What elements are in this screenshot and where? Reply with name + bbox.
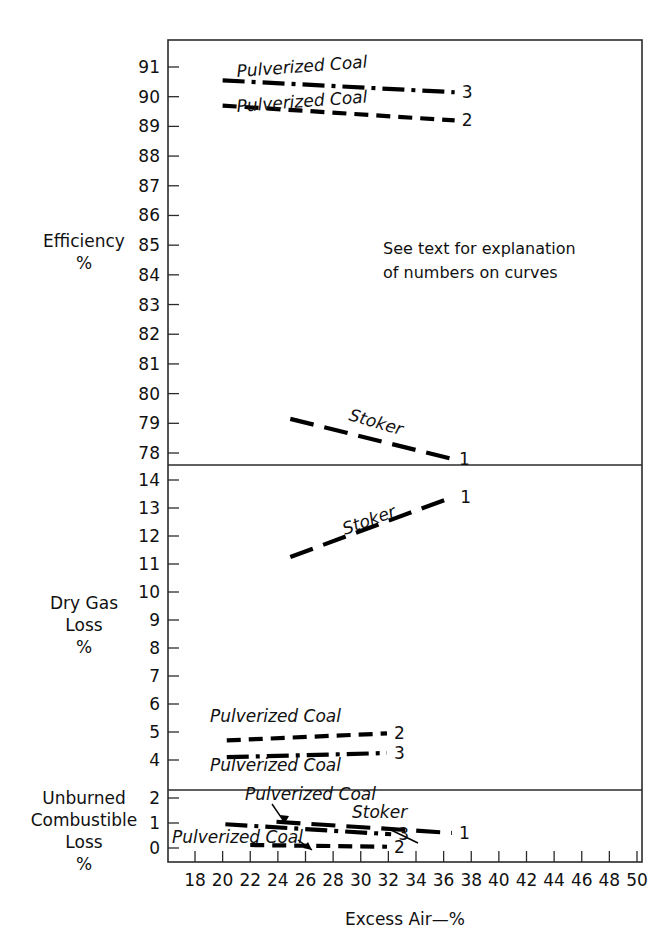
x-tick-label-20: 20: [212, 870, 234, 890]
curve-label-pulverized-coal-2-bot: Pulverized Coal: [172, 827, 303, 847]
curve-number-dry-gas-loss-1: 1: [460, 487, 471, 507]
y-tick-label-efficiency-85: 85: [138, 235, 160, 255]
y-tick-label-dry-gas-loss-13: 13: [138, 498, 160, 518]
x-tick-label-28: 28: [322, 870, 344, 890]
y-tick-label-efficiency-90: 90: [138, 87, 160, 107]
x-tick-label-46: 46: [571, 870, 593, 890]
y-tick-label-efficiency-80: 80: [138, 384, 160, 404]
x-tick-label-40: 40: [488, 870, 510, 890]
y-tick-label-efficiency-87: 87: [138, 176, 160, 196]
note-line-1: See text for explanation: [383, 239, 576, 258]
curve-number-efficiency-3: 3: [462, 82, 473, 102]
y-axis-ticks-unburned: 210: [149, 788, 179, 858]
x-tick-label-18: 18: [184, 870, 206, 890]
curve-label-stoker-bot: Stoker: [352, 802, 408, 822]
y-axis-ticks-drygas: 1413121110987654: [138, 470, 179, 770]
curve-number-efficiency-2: 2: [462, 110, 473, 130]
note-line-2: of numbers on curves: [383, 263, 558, 282]
drygas-label-line1: Dry Gas: [50, 593, 118, 613]
x-axis-title: Excess Air—%: [345, 909, 465, 929]
y-axis-title-efficiency: Efficiency %: [43, 231, 125, 273]
chart-figure: 9190898887868584838281807978 14131211109…: [0, 0, 672, 950]
x-tick-label-34: 34: [405, 870, 427, 890]
curve-number-unburned-combustible-loss-2: 2: [394, 837, 405, 857]
y-tick-label-efficiency-84: 84: [138, 265, 160, 285]
y-tick-label-unburned-combustible-loss-0: 0: [149, 838, 160, 858]
y-tick-label-dry-gas-loss-14: 14: [138, 470, 160, 490]
x-tick-label-42: 42: [516, 870, 538, 890]
series-layer: [223, 80, 455, 846]
y-axis-title-unburned: Unburned Combustible Loss %: [31, 788, 138, 874]
y-tick-label-efficiency-79: 79: [138, 413, 160, 433]
y-axis-title-drygas: Dry Gas Loss %: [50, 593, 118, 657]
x-tick-label-36: 36: [433, 870, 455, 890]
curve-number-efficiency-1: 1: [459, 449, 470, 469]
y-tick-label-dry-gas-loss-7: 7: [149, 666, 160, 686]
y-tick-label-dry-gas-loss-11: 11: [138, 554, 160, 574]
x-tick-label-50: 50: [626, 870, 648, 890]
x-tick-label-48: 48: [599, 870, 621, 890]
curve-label-stoker-mid: Stoker: [340, 501, 400, 539]
y-tick-label-efficiency-78: 78: [138, 443, 160, 463]
y-tick-label-efficiency-83: 83: [138, 295, 160, 315]
explanation-note: See text for explanation of numbers on c…: [383, 239, 576, 282]
y-tick-label-dry-gas-loss-8: 8: [149, 638, 160, 658]
y-tick-label-dry-gas-loss-4: 4: [149, 750, 160, 770]
x-tick-label-38: 38: [460, 870, 482, 890]
y-tick-label-dry-gas-loss-12: 12: [138, 526, 160, 546]
curve-number-dry-gas-loss-2: 2: [394, 723, 405, 743]
drygas-label-line2: Loss: [65, 615, 102, 635]
unburned-label-line1: Unburned: [42, 788, 126, 808]
boiler-efficiency-chart: 9190898887868584838281807978 14131211109…: [0, 0, 672, 950]
curve-number-unburned-combustible-loss-1: 1: [459, 823, 470, 843]
y-tick-label-efficiency-91: 91: [138, 57, 160, 77]
curve-label-pulverized-coal-3-top: Pulverized Coal: [236, 51, 368, 81]
y-tick-label-efficiency-82: 82: [138, 324, 160, 344]
y-tick-label-efficiency-88: 88: [138, 146, 160, 166]
x-tick-label-22: 22: [239, 870, 261, 890]
curve-label-pulverized-coal-3-mid: Pulverized Coal: [210, 755, 341, 775]
y-tick-label-efficiency-86: 86: [138, 205, 160, 225]
y-axis-ticks-efficiency: 9190898887868584838281807978: [138, 57, 179, 463]
y-tick-label-dry-gas-loss-6: 6: [149, 694, 160, 714]
curve-label-pulverized-coal-2-mid: Pulverized Coal: [210, 706, 341, 726]
y-tick-label-unburned-combustible-loss-2: 2: [149, 788, 160, 808]
x-tick-label-26: 26: [295, 870, 317, 890]
curve-label-stoker-top: Stoker: [347, 405, 406, 440]
unburned-label-line3: Loss: [65, 832, 102, 852]
y-tick-label-dry-gas-loss-5: 5: [149, 722, 160, 742]
curve-number-dry-gas-loss-3: 3: [394, 743, 405, 763]
y-tick-label-dry-gas-loss-10: 10: [138, 582, 160, 602]
y-tick-label-dry-gas-loss-9: 9: [149, 610, 160, 630]
drygas-label-line3: %: [76, 637, 92, 657]
y-tick-label-efficiency-89: 89: [138, 116, 160, 136]
curve-labels-unburned: Pulverized Coal Stoker Pulverized Coal: [172, 784, 408, 847]
y-tick-label-unburned-combustible-loss-1: 1: [149, 813, 160, 833]
efficiency-label-line1: Efficiency: [43, 231, 125, 251]
curve-labels-efficiency: Pulverized Coal Pulverized Coal Stoker: [236, 51, 407, 439]
curve-number-layer: 321123312: [394, 82, 473, 857]
x-tick-label-24: 24: [267, 870, 289, 890]
series-line-dry-gas-loss-2: [227, 733, 387, 740]
curve-label-pulverized-coal-3-bot: Pulverized Coal: [245, 784, 376, 804]
x-axis-ticks: 1820222426283032343638404244464850: [184, 851, 648, 890]
x-tick-label-44: 44: [543, 870, 565, 890]
efficiency-label-line2: %: [76, 253, 92, 273]
y-tick-label-efficiency-81: 81: [138, 354, 160, 374]
unburned-label-line2: Combustible: [31, 810, 138, 830]
unburned-label-line4: %: [76, 854, 92, 874]
x-tick-label-32: 32: [378, 870, 400, 890]
x-tick-label-30: 30: [350, 870, 372, 890]
